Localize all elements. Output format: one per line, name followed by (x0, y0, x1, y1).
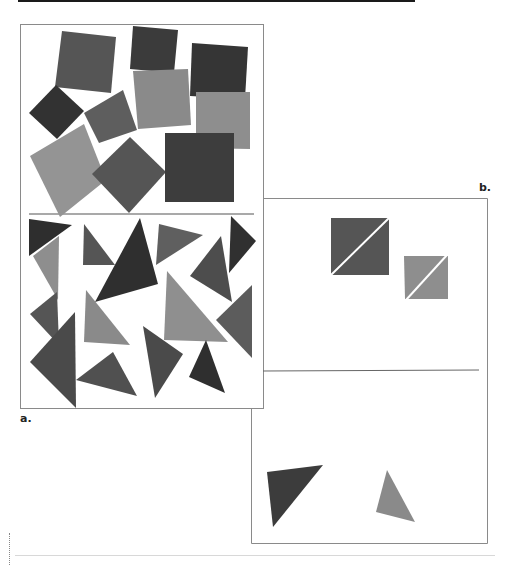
figure-canvas (0, 0, 511, 565)
panel-b-divider (263, 370, 479, 371)
square-8 (30, 124, 106, 217)
split-square-dark (331, 218, 389, 275)
square-6 (133, 69, 191, 129)
triangle-13 (76, 352, 137, 396)
triangle-7 (190, 236, 232, 302)
triangle-6 (229, 216, 256, 273)
panel-b (252, 198, 488, 544)
square-1 (55, 31, 116, 93)
triangle-light-b (376, 470, 415, 522)
square-2 (130, 26, 178, 73)
triangles-group (29, 216, 256, 408)
squares-group (29, 26, 250, 217)
square-10 (165, 133, 234, 202)
margin-dotted-line (9, 533, 10, 565)
panel-a (21, 25, 264, 409)
triangle-dark-b (267, 465, 323, 527)
triangle-5 (156, 224, 203, 265)
bottom-rule (15, 555, 495, 556)
square-3 (190, 43, 248, 99)
square-5 (84, 90, 137, 143)
split-square-light (404, 255, 448, 300)
triangle-15 (189, 340, 225, 393)
triangle-3 (83, 224, 115, 265)
panel-b-label: b. (479, 181, 491, 194)
square-9 (92, 137, 166, 213)
panel-a-label: a. (20, 412, 32, 425)
triangle-9 (216, 285, 252, 358)
